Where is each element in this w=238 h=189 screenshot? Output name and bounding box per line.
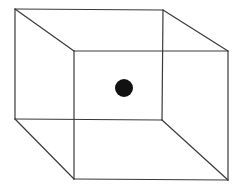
cube-svg: [0, 0, 238, 189]
center-dot: [115, 79, 133, 97]
cube-diagram: [0, 0, 238, 189]
depth-edge: [163, 10, 228, 51]
back-edge: [15, 9, 163, 10]
back-edge: [15, 119, 162, 120]
front-edge: [74, 179, 228, 180]
depth-edge: [15, 119, 74, 179]
depth-edge: [15, 9, 74, 51]
back-edge: [162, 10, 163, 120]
depth-edge: [162, 120, 228, 180]
